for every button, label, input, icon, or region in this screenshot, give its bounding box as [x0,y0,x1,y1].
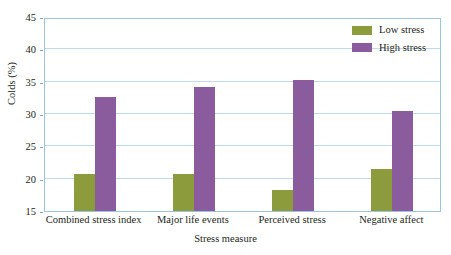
y-tick-label-45: 45 [6,13,36,24]
y-tick-mark-40 [40,50,43,51]
y-tick-mark-45 [40,18,43,19]
colds-stress-bar-chart: Colds (%) 15202530354045 Low stressHigh … [0,0,451,255]
bar-low-stress[interactable] [371,169,392,211]
bar-low-stress[interactable] [173,174,194,212]
x-tick-label: Combined stress index [44,215,143,226]
legend-label: Low stress [379,25,424,36]
bar-high-stress[interactable] [95,97,116,211]
y-tick-label-20: 20 [6,175,36,186]
bar-low-stress[interactable] [272,190,293,211]
y-tick-label-30: 30 [6,110,36,121]
x-tick-label: Major life events [143,215,242,226]
legend: Low stressHigh stress [352,25,426,53]
plot-area: Low stressHigh stress [44,18,441,212]
legend-item[interactable]: High stress [352,43,426,54]
bar-group [74,19,116,211]
bar-high-stress[interactable] [194,87,215,211]
bar-high-stress[interactable] [293,80,314,211]
y-tick-label-40: 40 [6,45,36,56]
y-tick-mark-25 [40,147,43,148]
y-tick-mark-20 [40,180,43,181]
y-tick-label-15: 15 [6,207,36,218]
y-tick-mark-15 [40,212,43,213]
x-axis-title: Stress measure [0,233,451,244]
legend-swatch-icon [352,43,372,52]
legend-item[interactable]: Low stress [352,25,426,36]
y-tick-label-35: 35 [6,78,36,89]
legend-label: High stress [379,43,426,54]
legend-swatch-icon [352,26,372,35]
y-tick-mark-35 [40,83,43,84]
y-tick-label-25: 25 [6,142,36,153]
y-tick-mark-30 [40,115,43,116]
bar-group [272,19,314,211]
bar-high-stress[interactable] [392,111,413,211]
x-tick-label: Negative affect [342,215,441,226]
bar-low-stress[interactable] [74,174,95,211]
bar-group [173,19,215,211]
x-tick-label: Perceived stress [243,215,342,226]
